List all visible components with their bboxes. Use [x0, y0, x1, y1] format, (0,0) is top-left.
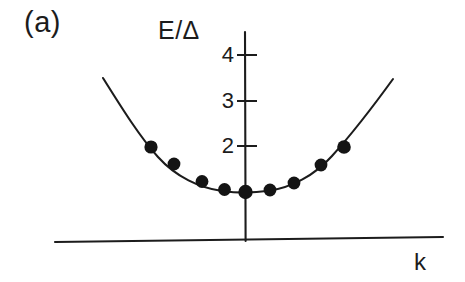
x-axis-title: k: [414, 250, 426, 274]
y-tick-label-3: 3: [212, 90, 234, 112]
y-tick-label-4: 4: [212, 44, 234, 66]
data-point: [337, 140, 351, 154]
y-axis-title: E/Δ: [158, 18, 200, 43]
data-point: [144, 140, 157, 153]
data-point: [168, 158, 181, 171]
data-point: [288, 177, 301, 190]
data-point: [264, 184, 277, 197]
data-point-group: [144, 140, 350, 199]
data-point: [238, 185, 252, 199]
data-point: [218, 183, 231, 196]
figure-panel: (a) E/Δ 4 3 2 k: [0, 0, 465, 282]
dispersion-curve: [103, 78, 393, 193]
data-point: [196, 175, 209, 188]
y-tick-label-2: 2: [212, 135, 234, 157]
data-point: [315, 159, 328, 172]
panel-label: (a): [24, 8, 61, 37]
x-axis-line: [55, 237, 443, 242]
y-axis-line: [245, 32, 246, 241]
